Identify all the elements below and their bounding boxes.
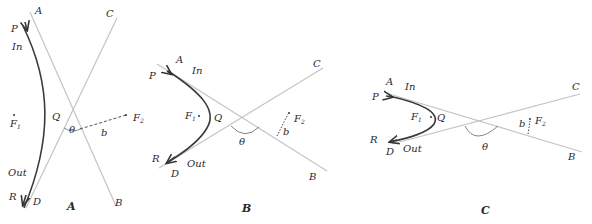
focus2-dot	[288, 112, 290, 114]
label-b-end: B	[114, 197, 122, 208]
angle-arc	[465, 126, 498, 136]
label-theta: θ	[69, 124, 75, 135]
label-a: A	[385, 76, 393, 87]
focus1-dot	[13, 114, 15, 116]
label-q: Q	[437, 112, 445, 123]
label-theta: θ	[239, 136, 245, 147]
label-theta: θ	[482, 141, 488, 152]
caption-a: A	[66, 200, 76, 213]
label-c: C	[572, 81, 580, 92]
focus2-dot	[125, 114, 127, 116]
caption-b: B	[241, 202, 251, 215]
focus1-dot	[198, 115, 200, 117]
label-in: In	[11, 41, 22, 52]
label-in: In	[191, 65, 202, 76]
caption-c: C	[481, 204, 490, 217]
label-f1: F1	[184, 110, 196, 122]
label-f1: F1	[410, 111, 422, 123]
label-a: A	[34, 5, 42, 16]
arrow-in-icon	[386, 96, 392, 97]
focus1-dot	[430, 116, 432, 118]
focus2-dot	[529, 118, 531, 120]
label-f2: F2	[293, 113, 305, 125]
panel-a: A C P In Q F1 θ b F2 Out R D B A	[8, 5, 144, 213]
label-p: P	[148, 70, 156, 81]
label-b-end: B	[308, 171, 316, 182]
label-b-end: B	[567, 151, 575, 162]
label-r: R	[8, 191, 17, 202]
label-d: D	[385, 146, 394, 157]
label-f1: F1	[9, 118, 21, 130]
label-d: D	[170, 168, 179, 179]
arrow-out-icon	[167, 157, 175, 163]
label-in: In	[404, 81, 415, 92]
label-q: Q	[52, 111, 60, 122]
trajectory-pr	[23, 26, 45, 208]
label-a: A	[175, 54, 183, 65]
angle-arc	[231, 126, 259, 134]
label-f2: F2	[132, 112, 144, 124]
label-b: b	[519, 118, 525, 129]
label-c: C	[106, 8, 114, 19]
panel-b: A In P F1 Q θ b F2 R Out D C B B	[148, 54, 327, 215]
label-d: D	[32, 196, 41, 207]
label-out: Out	[403, 143, 423, 154]
asymptote-cd	[26, 18, 117, 208]
label-r: R	[369, 134, 378, 145]
scattering-diagram: A C P In Q F1 θ b F2 Out R D B A A In P …	[0, 0, 592, 224]
label-out: Out	[8, 167, 28, 178]
label-p: P	[10, 23, 18, 34]
panel-c: A In P F1 Q θ b F2 R D Out C B C	[369, 76, 582, 217]
label-q: Q	[214, 112, 222, 123]
label-b: b	[283, 126, 289, 137]
label-f2: F2	[534, 115, 546, 127]
label-c: C	[313, 58, 321, 69]
arrow-out-icon	[390, 140, 397, 142]
impact-parameter-line	[528, 121, 530, 134]
label-p: P	[371, 91, 379, 102]
arrow-in-icon	[25, 22, 27, 30]
label-b: b	[101, 127, 107, 138]
label-r: R	[151, 153, 160, 164]
label-out: Out	[187, 158, 207, 169]
